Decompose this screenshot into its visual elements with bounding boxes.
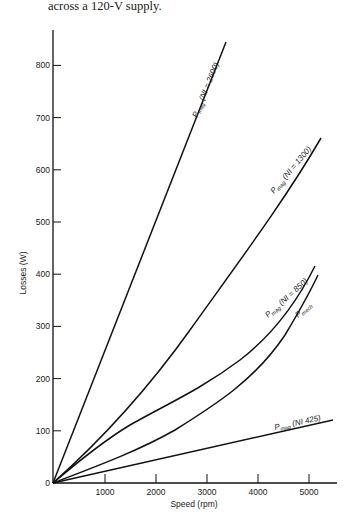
x-ticks — [105, 474, 309, 483]
y-axis-title: Losses (W) — [18, 251, 28, 294]
curve-labels: Pmag (NI = 2600) Pmag (NI = 1300) Pmag (… — [191, 61, 323, 433]
y-tick-label: 600 — [36, 165, 50, 175]
y-tick-label: 500 — [36, 217, 50, 227]
label-pmag-ni-2600: Pmag (NI = 2600) — [191, 61, 222, 119]
x-tick-label: 5000 — [300, 487, 319, 497]
y-tick-label: 100 — [36, 426, 50, 436]
y-tick-label: 400 — [36, 269, 50, 279]
curves — [53, 42, 333, 483]
y-tick-labels: 0 100 200 300 400 500 600 700 800 — [36, 60, 50, 488]
x-tick-label: 1000 — [96, 487, 115, 497]
losses-vs-speed-chart: 0 100 200 300 400 500 600 700 800 1000 2… — [0, 0, 355, 526]
y-ticks — [53, 65, 61, 430]
x-tick-label: 4000 — [249, 487, 268, 497]
y-tick-label: 0 — [45, 478, 50, 488]
y-tick-label: 800 — [36, 60, 50, 70]
y-tick-label: 300 — [36, 321, 50, 331]
x-tick-label: 2000 — [147, 487, 166, 497]
label-pmag-ni-1300: Pmag (NI = 1300) — [269, 144, 314, 196]
curve-pmag-ni-850 — [53, 266, 315, 483]
x-tick-labels: 1000 2000 3000 4000 5000 — [96, 487, 319, 497]
y-tick-label: 700 — [36, 113, 50, 123]
y-tick-label: 200 — [36, 374, 50, 384]
x-tick-label: 3000 — [198, 487, 217, 497]
label-pmag-ni-425: Pmag (NI 425) — [274, 413, 323, 433]
x-axis-title: Speed (rpm) — [170, 499, 217, 509]
